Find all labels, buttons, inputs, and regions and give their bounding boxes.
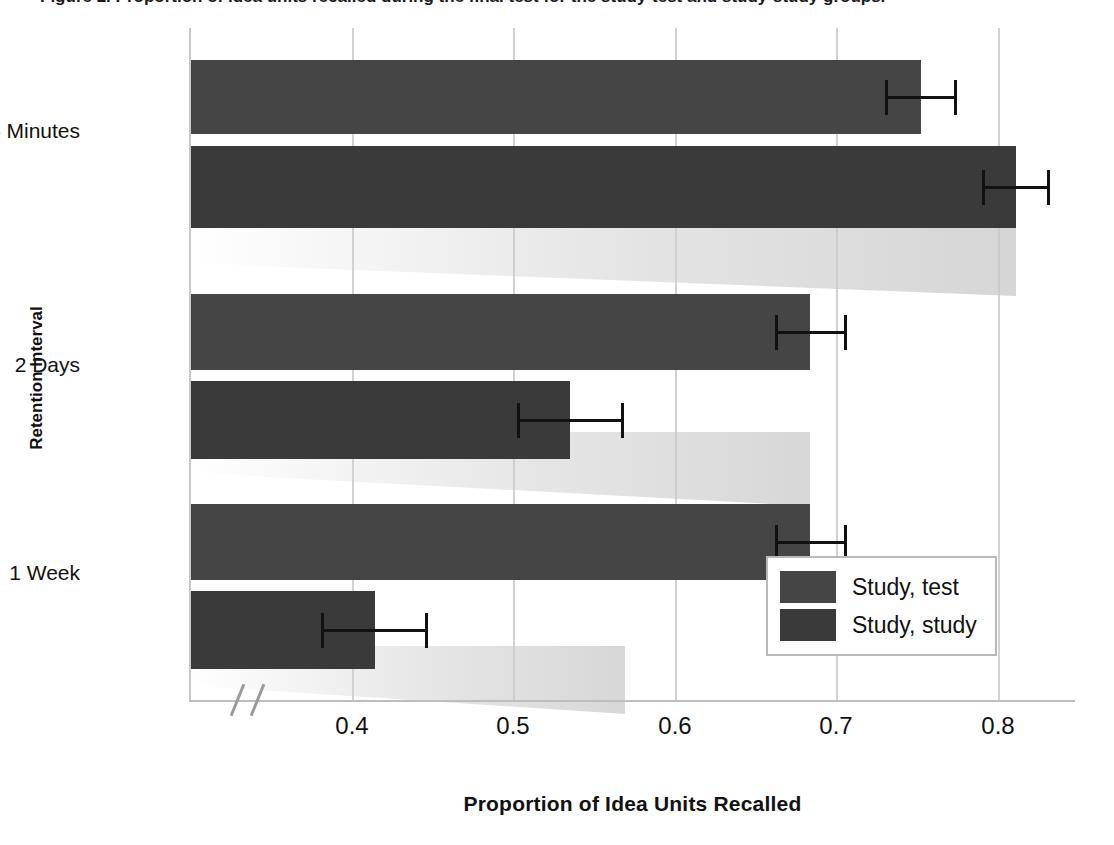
y-tick-label-5-minutes: 5 Minutes — [0, 119, 80, 143]
error-cap-right — [1047, 170, 1050, 205]
error-whisker — [885, 96, 957, 99]
legend: Study, test Study, study — [766, 556, 997, 656]
error-whisker — [775, 331, 847, 334]
bar-5-minutes-study-study — [190, 146, 1016, 228]
error-cap-left — [517, 403, 520, 438]
error-whisker — [982, 186, 1050, 189]
error-cap-right — [954, 80, 957, 115]
figure-caption-text: Figure 2. Proportion of idea units recal… — [40, 0, 1100, 7]
x-tick-label-0.8: 0.8 — [958, 712, 1038, 740]
x-tick-label-0.7: 0.7 — [796, 712, 876, 740]
figure-container: Figure 2. Proportion of idea units recal… — [0, 0, 1114, 845]
bar-2-days-study-study — [190, 381, 570, 459]
error-whisker — [517, 419, 624, 422]
legend-label-study-study: Study, study — [852, 612, 977, 639]
y-tick-label-1-week: 1 Week — [0, 561, 80, 585]
legend-item-study-study: Study, study — [780, 606, 977, 644]
figure-caption: Figure 2. Proportion of idea units recal… — [40, 0, 1100, 7]
bar-shadow-5-minutes — [190, 228, 1016, 296]
x-tick-label-0.5: 0.5 — [473, 712, 553, 740]
bar-5-minutes-study-test — [190, 60, 921, 134]
error-cap-left — [321, 613, 324, 648]
x-axis-line — [190, 700, 1075, 702]
error-cap-right — [844, 315, 847, 350]
legend-swatch-study-test — [780, 571, 836, 603]
error-cap-left — [885, 80, 888, 115]
error-cap-left — [982, 170, 985, 205]
error-cap-right — [425, 613, 428, 648]
error-whisker — [775, 541, 847, 544]
error-cap-left — [775, 525, 778, 560]
x-axis-title: Proportion of Idea Units Recalled — [190, 792, 1075, 816]
legend-label-study-test: Study, test — [852, 574, 959, 601]
gridline-0.8 — [998, 28, 1000, 700]
x-tick-label-0.4: 0.4 — [312, 712, 392, 740]
legend-item-study-test: Study, test — [780, 568, 977, 606]
error-cap-left — [775, 315, 778, 350]
y-axis-line — [189, 28, 191, 702]
x-tick-label-0.6: 0.6 — [635, 712, 715, 740]
y-axis-title: Retention Interval — [27, 278, 47, 478]
legend-swatch-study-study — [780, 609, 836, 641]
error-whisker — [321, 629, 428, 632]
error-cap-right — [621, 403, 624, 438]
error-cap-right — [844, 525, 847, 560]
bar-1-week-study-test — [190, 504, 810, 580]
y-tick-label-2-days: 2 Days — [0, 353, 80, 377]
bar-2-days-study-test — [190, 294, 810, 370]
